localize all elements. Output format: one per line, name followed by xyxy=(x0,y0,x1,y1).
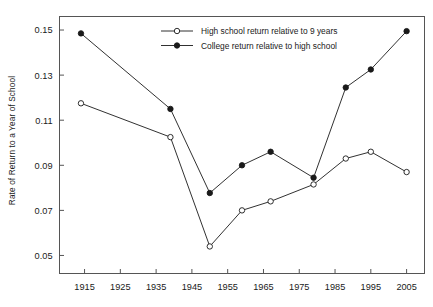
data-point-marker xyxy=(207,244,212,249)
x-axis-ticks: 1915192519351945195519651975198519952005 xyxy=(74,269,417,292)
legend-item: High school return relative to 9 years xyxy=(161,26,337,36)
x-tick-label: 1915 xyxy=(74,282,94,292)
data-point-marker xyxy=(168,134,173,139)
data-point-marker xyxy=(78,31,83,36)
x-tick-label: 1995 xyxy=(361,282,381,292)
data-point-marker xyxy=(268,199,273,204)
data-point-marker xyxy=(168,106,173,111)
chart-legend: High school return relative to 9 yearsCo… xyxy=(161,26,337,51)
x-tick-label: 1965 xyxy=(253,282,273,292)
chart-container: Rate of Return to a Year of School 0.050… xyxy=(0,0,433,307)
data-point-marker xyxy=(404,169,409,174)
y-tick-label: 0.09 xyxy=(35,161,53,171)
data-point-marker xyxy=(239,208,244,213)
y-tick-label: 0.07 xyxy=(35,206,53,216)
data-series xyxy=(78,28,409,195)
legend-open-circle-icon xyxy=(174,28,179,33)
data-point-marker xyxy=(239,163,244,168)
x-tick-label: 1945 xyxy=(182,282,202,292)
y-tick-label: 0.05 xyxy=(35,251,53,261)
legend-item: College return relative to high school xyxy=(161,41,337,51)
data-point-marker xyxy=(311,182,316,187)
data-point-marker xyxy=(78,101,83,106)
data-point-marker xyxy=(343,85,348,90)
line-chart-plot: 0.050.070.090.110.130.15 191519251935194… xyxy=(0,0,433,307)
data-point-marker xyxy=(368,67,373,72)
y-tick-label: 0.11 xyxy=(35,116,52,126)
data-point-marker xyxy=(311,175,316,180)
data-point-marker xyxy=(268,149,273,154)
data-point-marker xyxy=(343,156,348,161)
data-series-group xyxy=(78,28,409,249)
y-axis-title: Rate of Return to a Year of School xyxy=(0,0,26,280)
data-point-marker xyxy=(404,28,409,33)
data-point-marker xyxy=(368,149,373,154)
legend-label: College return relative to high school xyxy=(201,41,337,51)
x-tick-label: 1985 xyxy=(325,282,345,292)
plot-frame xyxy=(60,17,425,274)
y-tick-label: 0.15 xyxy=(35,25,53,35)
data-series xyxy=(78,101,409,250)
y-tick-label: 0.13 xyxy=(35,71,53,81)
x-tick-label: 1955 xyxy=(217,282,237,292)
legend-label: High school return relative to 9 years xyxy=(201,26,337,36)
x-tick-label: 1925 xyxy=(110,282,130,292)
x-tick-label: 1935 xyxy=(146,282,166,292)
x-tick-label: 2005 xyxy=(396,282,416,292)
legend-filled-circle-icon xyxy=(174,43,179,48)
y-axis-title-label: Rate of Return to a Year of School xyxy=(9,75,18,204)
x-tick-label: 1975 xyxy=(289,282,309,292)
data-point-marker xyxy=(207,190,212,195)
